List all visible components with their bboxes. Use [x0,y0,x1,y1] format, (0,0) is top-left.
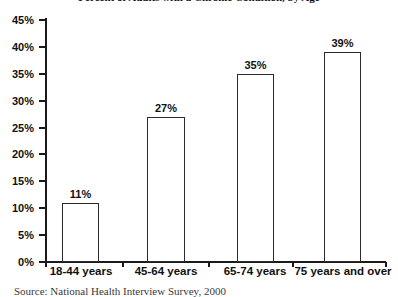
y-axis-tick-label: 40% [0,42,34,52]
y-axis-tick-label: 45% [0,15,34,25]
bar-chart-figure: Percent of Adults with a Chronic Conditi… [0,0,398,297]
y-axis-tick [39,180,45,182]
y-axis-tick-label: 30% [0,96,34,106]
y-axis-tick-label: 25% [0,123,34,133]
source-clipped-strip: Source: National Health Interview Survey… [0,285,398,297]
category-label: 18-44 years [35,265,127,278]
bar-value-label: 11% [40,188,121,200]
y-axis-tick-label: 35% [0,69,34,79]
y-axis-tick-label: 20% [0,149,34,159]
y-axis-tick [39,153,45,155]
y-axis-tick [39,207,45,209]
bar [324,52,361,262]
category-label: 75 years and over [288,265,398,278]
bar-value-label: 39% [302,37,383,49]
y-axis-tick-label: 5% [0,230,34,240]
y-axis-tick [39,19,45,21]
y-axis-tick-label: 15% [0,176,34,186]
chart-title: Percent of Adults with a Chronic Conditi… [0,0,398,3]
y-axis-tick-label: 0% [0,257,34,267]
y-axis-tick [39,127,45,129]
bar-value-label: 35% [215,59,296,71]
y-axis-tick [39,73,45,75]
y-axis-tick [39,234,45,236]
bar [237,74,274,262]
category-label: 45-64 years [120,265,212,278]
bar-value-label: 27% [125,102,207,114]
y-axis-tick [39,100,45,102]
chart-title-clipped-strip: Percent of Adults with a Chronic Conditi… [0,0,398,5]
y-axis-line [45,18,47,264]
bar [147,117,185,262]
y-axis-tick [39,46,45,48]
y-axis-tick-label: 10% [0,203,34,213]
source-note: Source: National Health Interview Survey… [14,285,226,297]
bar [62,203,99,262]
